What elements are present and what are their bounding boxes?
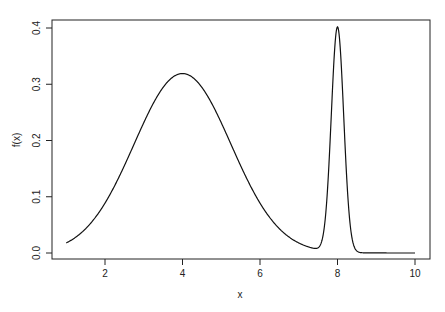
x-tick-label: 2 <box>102 268 108 279</box>
y-tick-label: 0.3 <box>31 77 42 91</box>
y-tick-label: 0.1 <box>31 189 42 203</box>
x-axis: 246810 <box>102 259 421 279</box>
y-tick-label: 0.2 <box>31 133 42 147</box>
density-curve <box>66 27 415 253</box>
x-tick-label: 10 <box>409 268 421 279</box>
y-axis-label: f(x) <box>11 133 22 147</box>
x-tick-label: 6 <box>257 268 263 279</box>
density-plot: 0.00.10.20.30.4 246810 x f(x) <box>0 0 445 312</box>
plot-box <box>52 20 430 259</box>
y-tick-label: 0.4 <box>31 21 42 35</box>
y-axis: 0.00.10.20.30.4 <box>31 21 52 260</box>
y-tick-label: 0.0 <box>31 246 42 260</box>
x-axis-label: x <box>238 289 243 300</box>
x-tick-label: 8 <box>335 268 341 279</box>
x-tick-label: 4 <box>180 268 186 279</box>
